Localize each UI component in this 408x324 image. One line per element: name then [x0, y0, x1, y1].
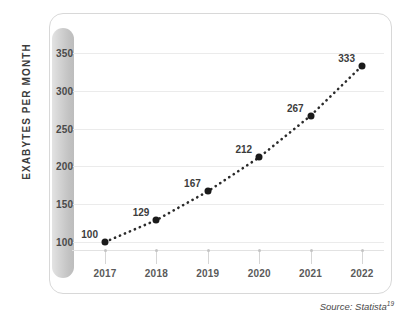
- gridline: [72, 204, 384, 205]
- data-point-marker[interactable]: [307, 112, 314, 119]
- x-tick-label: 2018: [130, 268, 182, 279]
- data-point-label: 100: [81, 229, 98, 240]
- source-note: Source: Statista19: [320, 300, 394, 312]
- gridline: [72, 53, 384, 54]
- source-text: Source: Statista: [320, 301, 387, 312]
- data-point-label: 167: [184, 178, 201, 189]
- data-point-marker[interactable]: [359, 62, 366, 69]
- x-tick-dot: [361, 249, 364, 252]
- x-tick-mark: [105, 250, 106, 264]
- plot-area: [72, 28, 384, 260]
- gridline: [72, 166, 384, 167]
- data-point-marker[interactable]: [153, 217, 160, 224]
- x-tick-dot: [310, 249, 313, 252]
- axis-baseline: [72, 250, 384, 251]
- y-tick-label: 300: [56, 85, 100, 96]
- x-tick-label: 2017: [79, 268, 131, 279]
- y-tick-label: 200: [56, 161, 100, 172]
- x-tick-label: 2019: [182, 268, 234, 279]
- x-tick-label: 2021: [285, 268, 337, 279]
- gridline: [72, 91, 384, 92]
- x-tick-mark: [156, 250, 157, 264]
- y-tick-label: 250: [56, 123, 100, 134]
- chart-figure: EXABYTES PER MONTH 100150200250300350201…: [0, 0, 408, 324]
- data-point-marker[interactable]: [256, 154, 263, 161]
- data-point-label: 333: [338, 52, 355, 63]
- gridline: [72, 129, 384, 130]
- data-point-label: 212: [236, 144, 253, 155]
- x-tick-label: 2020: [233, 268, 285, 279]
- x-tick-mark: [311, 250, 312, 264]
- x-tick-mark: [208, 250, 209, 264]
- y-axis-title: EXABYTES PER MONTH: [21, 22, 32, 202]
- y-tick-label: 350: [56, 48, 100, 59]
- data-point-marker[interactable]: [102, 239, 109, 246]
- x-tick-mark: [259, 250, 260, 264]
- data-point-marker[interactable]: [204, 188, 211, 195]
- data-point-label: 129: [133, 207, 150, 218]
- source-superscript: 19: [387, 300, 394, 307]
- gridline: [72, 242, 384, 243]
- y-tick-label: 150: [56, 199, 100, 210]
- x-tick-dot: [207, 249, 210, 252]
- x-tick-mark: [362, 250, 363, 264]
- data-point-label: 267: [287, 102, 304, 113]
- x-tick-label: 2022: [336, 268, 388, 279]
- x-tick-dot: [104, 249, 107, 252]
